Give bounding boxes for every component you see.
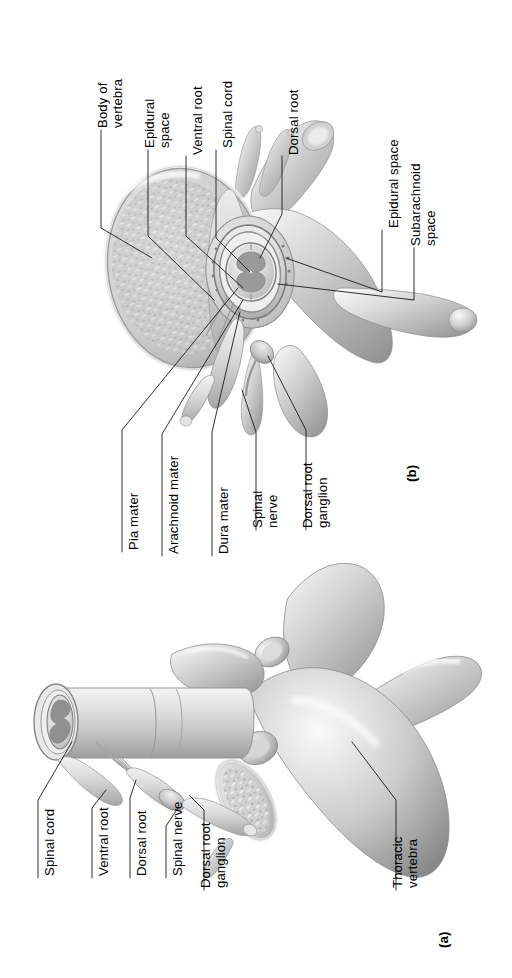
figure-canvas: Body of vertebra Epidural space Ventral … bbox=[0, 0, 512, 978]
gray-matter-a bbox=[50, 700, 70, 743]
label-ventral-root-b: Ventral root bbox=[190, 86, 206, 155]
label-line: Dorsal root bbox=[300, 462, 315, 528]
label-spinal-nerve-b: Spinal nerve bbox=[250, 491, 281, 528]
anatomical-illustration bbox=[0, 0, 512, 978]
label-thoracic-vertebra: Thoracic vertebra bbox=[390, 837, 421, 888]
label-body-of-vertebra: Body of vertebra bbox=[95, 79, 126, 128]
label-line: Dorsal root bbox=[198, 822, 213, 888]
inferior-articular-process-b bbox=[273, 346, 327, 437]
panel-label-a: (a) bbox=[436, 932, 451, 948]
label-arachnoid-mater: Arachnoid mater bbox=[166, 456, 182, 554]
label-line: space bbox=[157, 99, 172, 148]
label-dorsal-root-a: Dorsal root bbox=[134, 810, 150, 876]
label-line: nerve bbox=[265, 491, 280, 528]
ventral-root-a bbox=[58, 757, 122, 806]
label-line: space bbox=[423, 163, 438, 246]
label-pia-mater: Pia mater bbox=[126, 493, 142, 550]
label-epidural-space-right: Epidural space bbox=[386, 139, 402, 228]
label-ventral-root-a: Ventral root bbox=[96, 807, 112, 876]
label-line: Body of bbox=[95, 79, 110, 128]
label-spinal-cord-a: Spinal cord bbox=[42, 809, 58, 876]
dura-sheath-a bbox=[34, 684, 254, 760]
transverse-process-tip-b bbox=[449, 308, 477, 332]
nerve-tip-b bbox=[180, 416, 192, 426]
label-line: Spinal bbox=[250, 491, 265, 528]
central-canal-b bbox=[249, 270, 252, 273]
label-line: Thoracic bbox=[390, 837, 405, 888]
label-dorsal-root-b: Dorsal root bbox=[286, 89, 302, 155]
label-line: vertebra bbox=[110, 79, 125, 128]
label-line: Epidural bbox=[142, 99, 157, 148]
label-line: ganglion bbox=[315, 462, 330, 528]
panel-label-b: (b) bbox=[404, 465, 419, 482]
label-dura-mater: Dura mater bbox=[216, 487, 232, 554]
label-line: vertebra bbox=[405, 837, 420, 888]
prong-tip-b bbox=[255, 125, 262, 132]
label-dorsal-root-ganglion-a: Dorsal root ganglion bbox=[198, 822, 229, 888]
label-subarachnoid-space: Subarachnoid space bbox=[408, 163, 439, 246]
label-epidural-space-left: Epidural space bbox=[142, 99, 173, 148]
label-line: Subarachnoid bbox=[408, 163, 423, 246]
label-spinal-cord-b: Spinal cord bbox=[220, 81, 236, 148]
label-dorsal-root-ganglion-b: Dorsal root ganglion bbox=[300, 462, 331, 528]
label-line: ganglion bbox=[213, 822, 228, 888]
label-spinal-nerve-a: Spinal nerve bbox=[170, 801, 186, 876]
